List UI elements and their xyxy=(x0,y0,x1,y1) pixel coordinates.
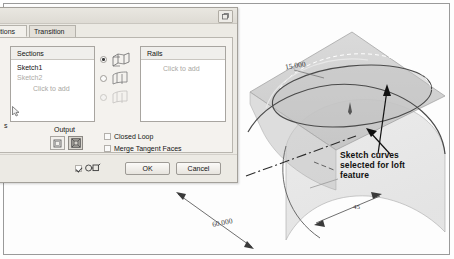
loft-type-radio-3[interactable] xyxy=(100,94,107,101)
tab-conditions[interactable]: Conditions xyxy=(0,25,27,37)
sections-listbox[interactable]: Sections Sketch1 Sketch2 Click to add xyxy=(10,46,95,122)
loft-area-icon xyxy=(111,90,133,110)
preview-checkbox[interactable] xyxy=(75,163,101,173)
loft-dialog[interactable]: Conditions Transition Sections Sketch1 S… xyxy=(0,7,238,183)
sections-header: Sections xyxy=(11,47,94,60)
loft-rail-icon xyxy=(111,52,133,72)
left-edge-stub-text: s xyxy=(4,122,8,129)
loft-type-option-3[interactable] xyxy=(100,90,140,108)
sketch-annotation-line3: feature xyxy=(340,170,369,181)
dialog-footer: OK Cancel xyxy=(0,154,237,182)
closed-loop-checkbox-box[interactable] xyxy=(104,133,111,140)
sections-item-sketch2[interactable]: Sketch2 xyxy=(17,74,42,81)
surface-output-icon[interactable] xyxy=(50,136,65,150)
conditions-panel: Sections Sketch1 Sketch2 Click to add Ra… xyxy=(0,37,233,153)
rails-listbox[interactable]: Rails Click to add xyxy=(140,46,226,122)
sections-item-sketch1[interactable]: Sketch1 xyxy=(17,64,42,71)
merge-tangent-faces-checkbox-box[interactable] xyxy=(104,145,111,152)
merge-tangent-faces-label: Merge Tangent Faces xyxy=(114,145,182,152)
preview-checkbox-box[interactable] xyxy=(75,165,82,172)
ok-button[interactable]: OK xyxy=(125,162,170,175)
cancel-button[interactable]: Cancel xyxy=(176,162,221,175)
sketch-annotation-line1: Sketch curves xyxy=(340,150,399,161)
preview-glasses-icon xyxy=(85,163,101,173)
width-dimension-text: 45 xyxy=(353,203,360,211)
restore-icon[interactable] xyxy=(218,10,233,23)
merge-tangent-faces-checkbox[interactable]: Merge Tangent Faces xyxy=(104,145,182,152)
cursor-glyph xyxy=(12,106,21,117)
dialog-tabstrip[interactable]: Conditions Transition xyxy=(0,24,237,37)
sketch-annotation-line2: selected for loft xyxy=(340,160,405,171)
loft-type-radio-1[interactable] xyxy=(100,56,107,63)
restore-glyph xyxy=(222,13,229,20)
tab-transition[interactable]: Transition xyxy=(29,25,76,37)
loft-type-option-1[interactable] xyxy=(100,52,140,70)
output-label: Output xyxy=(54,126,75,133)
closed-loop-label: Closed Loop xyxy=(114,133,153,140)
loft-type-radio-2[interactable] xyxy=(100,75,107,82)
closed-loop-checkbox[interactable]: Closed Loop xyxy=(104,133,153,140)
loft-type-option-2[interactable] xyxy=(100,71,140,89)
mouse-cursor-icon xyxy=(12,103,21,114)
loft-center-icon xyxy=(111,71,133,91)
rails-click-to-add[interactable]: Click to add xyxy=(163,65,200,72)
dialog-titlebar[interactable] xyxy=(0,8,237,24)
solid-output-icon[interactable] xyxy=(68,136,83,150)
sections-click-to-add[interactable]: Click to add xyxy=(33,85,70,92)
rails-header: Rails xyxy=(141,47,225,60)
screenshot-root: 15.000 60.000 45 Sketch curves selected … xyxy=(0,0,454,259)
